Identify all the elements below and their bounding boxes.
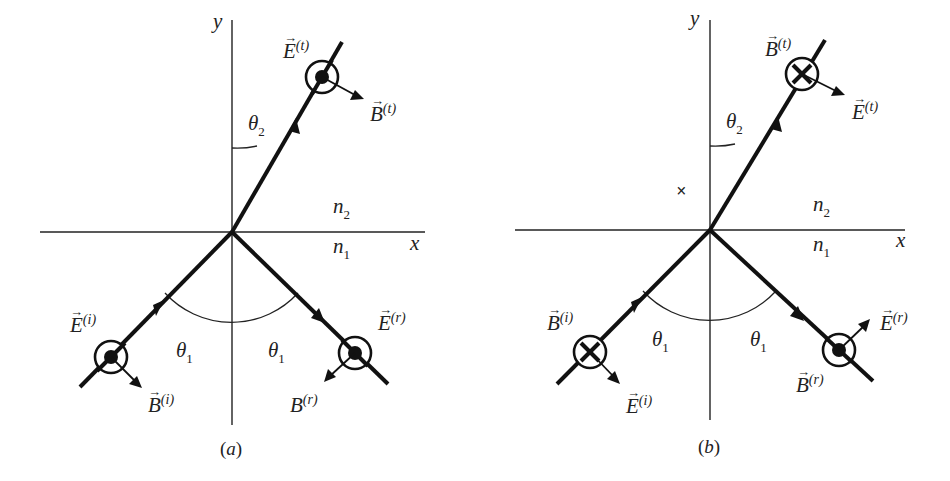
transmitted-B-arrowhead <box>350 90 364 100</box>
incident-E-vector-arrow: → <box>627 385 640 400</box>
panel-a: y x n2 n1 θ2 θ1 θ1 E(i) → B(i) → <box>40 9 425 460</box>
theta2-label: θ2 <box>248 111 265 139</box>
theta2-label: θ2 <box>726 109 743 137</box>
transmitted-B-vector-arrow: → <box>766 28 779 43</box>
transmitted-E-vector-arrow: → <box>853 91 866 106</box>
reflected-B-label: B(r) <box>290 392 318 417</box>
theta2-arc <box>710 144 735 146</box>
transmitted-E-arrowhead <box>831 86 845 96</box>
reflected-E-vector-arrow: → <box>881 302 894 317</box>
panel-b-caption: (b) <box>698 436 720 458</box>
panel-a-caption: (xa) <box>220 438 242 460</box>
incident-B-vector-arrow: → <box>148 384 161 399</box>
medium-n1-label: n1 <box>333 234 350 262</box>
theta1-reflected-label: θ1 <box>268 338 285 366</box>
theta1-incident-label: θ1 <box>652 327 669 355</box>
incident-B-vector-arrow: → <box>548 302 561 317</box>
stray-cross-mark: × <box>676 181 686 201</box>
theta1-reflected-label: θ1 <box>750 327 767 355</box>
panel-b: y x × n2 n1 θ2 θ1 θ1 B(i) → E(i) → <box>515 6 908 458</box>
reflected-B-vector-arrow: → <box>797 364 810 379</box>
theta1-incident-label: θ1 <box>176 338 193 366</box>
y-axis-label: y <box>688 6 700 30</box>
transmitted-B-vector-arrow: → <box>371 93 384 108</box>
incident-E-vector-arrow: → <box>70 304 83 319</box>
y-axis-label: y <box>211 9 223 33</box>
figure-canvas: y x n2 n1 θ2 θ1 θ1 E(i) → B(i) → <box>0 0 950 481</box>
transmitted-E-vector-arrow: → <box>284 30 297 45</box>
x-axis-label: x <box>409 231 420 255</box>
x-axis-label: x <box>895 228 906 252</box>
theta2-arc <box>232 146 257 148</box>
medium-n1-label: n1 <box>813 232 830 260</box>
medium-n2-label: n2 <box>813 192 830 220</box>
reflected-E-vector-arrow: → <box>379 302 392 317</box>
medium-n2-label: n2 <box>333 194 350 222</box>
